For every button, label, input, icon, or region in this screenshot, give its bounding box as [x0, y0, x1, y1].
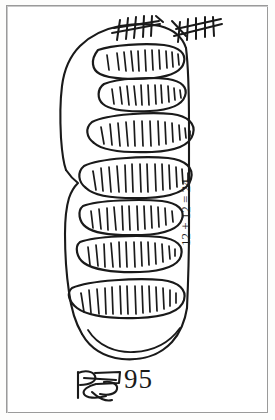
hatched-oval-5 — [79, 200, 182, 235]
oval-2-hatching — [112, 85, 181, 105]
hatched-oval-6 — [77, 236, 182, 272]
hatched-oval-3 — [87, 113, 193, 152]
tally-group-1 — [112, 16, 163, 40]
oval-5-hatching — [91, 206, 173, 230]
hatched-oval-4 — [79, 157, 191, 198]
sketch-page: 12 + 12 = 24 95 vertical ovoid body outl… — [0, 0, 275, 420]
caption-number: 95 — [124, 366, 153, 393]
ink-drawing — [0, 0, 275, 420]
hatched-oval-2 — [99, 78, 186, 111]
oval-3-hatching — [101, 121, 190, 146]
hatched-oval-1 — [93, 44, 184, 79]
oval-4-hatching — [93, 164, 188, 192]
hatched-oval-7 — [69, 279, 185, 318]
oval-1-hatching — [107, 50, 179, 71]
signature-scribble — [78, 371, 120, 400]
oval-7-hatching — [81, 286, 176, 314]
equation-annotation: 12 + 12 = 24 — [178, 179, 194, 246]
oval-6-hatching — [88, 242, 175, 267]
